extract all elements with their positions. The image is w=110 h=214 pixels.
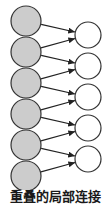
output-node-r1 bbox=[75, 22, 101, 48]
connection-edge bbox=[41, 132, 75, 141]
overlapping-local-connections-figure: 重叠的局部连接 bbox=[0, 0, 110, 214]
output-nodes-group bbox=[75, 22, 101, 172]
input-node-l2 bbox=[11, 37, 41, 67]
input-node-l3 bbox=[11, 68, 41, 98]
output-node-r4 bbox=[75, 115, 101, 141]
connection-edge bbox=[41, 148, 75, 156]
input-nodes-group bbox=[11, 6, 41, 190]
figure-caption: 重叠的局部连接 bbox=[0, 189, 110, 205]
connection-edge bbox=[41, 39, 75, 48]
input-node-l6 bbox=[11, 161, 41, 190]
connection-edge bbox=[41, 163, 75, 172]
input-node-l1 bbox=[11, 6, 41, 36]
connection-edge bbox=[41, 117, 75, 125]
input-node-l5 bbox=[11, 130, 41, 160]
output-node-r3 bbox=[75, 84, 101, 110]
output-node-r5 bbox=[75, 146, 101, 172]
network-diagram bbox=[0, 0, 110, 190]
edges-group bbox=[41, 24, 75, 171]
output-node-r2 bbox=[75, 53, 101, 79]
connection-edge bbox=[41, 70, 75, 79]
input-node-l4 bbox=[11, 99, 41, 129]
connection-edge bbox=[41, 55, 75, 63]
connection-edge bbox=[41, 101, 75, 110]
connection-edge bbox=[41, 86, 75, 94]
connection-edge bbox=[41, 24, 75, 32]
